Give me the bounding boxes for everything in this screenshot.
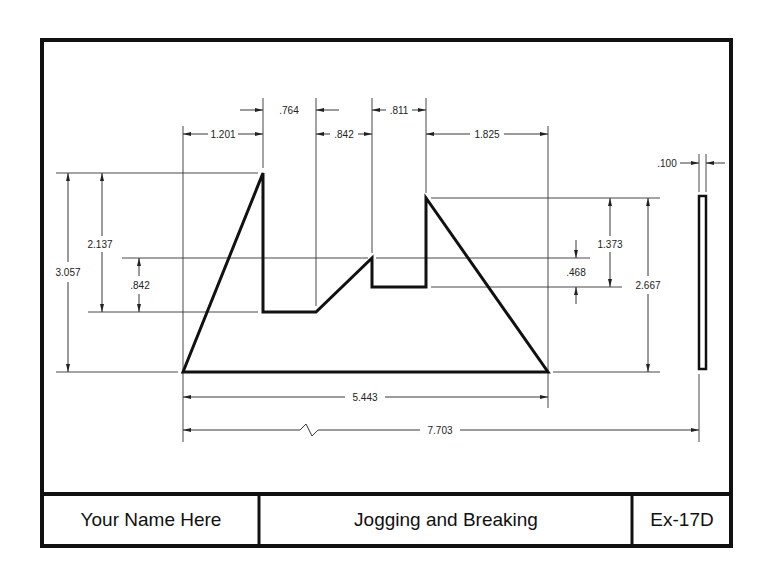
dim-1825: 1.825 bbox=[474, 129, 499, 140]
dim-842-h: .842 bbox=[334, 129, 354, 140]
dim-100: .100 bbox=[657, 158, 677, 169]
extension-lines bbox=[56, 98, 706, 442]
dim-3057: 3.057 bbox=[55, 267, 80, 278]
dim-468: .468 bbox=[566, 267, 586, 278]
title-block-title: Jogging and Breaking bbox=[261, 496, 631, 544]
dimension-lines bbox=[68, 110, 725, 436]
part-profile bbox=[183, 173, 548, 372]
dim-7703: 7.703 bbox=[427, 425, 452, 436]
dim-2667: 2.667 bbox=[635, 280, 660, 291]
dim-1201: 1.201 bbox=[210, 129, 235, 140]
drawing-border bbox=[42, 40, 731, 546]
title-block-name: Your Name Here bbox=[44, 496, 258, 544]
dim-811: .811 bbox=[390, 105, 409, 116]
part-side-view bbox=[699, 196, 706, 369]
technical-drawing: 1.201 .764 .842 .811 1.825 .100 5.443 7.… bbox=[0, 0, 766, 574]
dim-1373: 1.373 bbox=[597, 239, 622, 250]
dim-764: .764 bbox=[279, 105, 299, 116]
dim-5443: 5.443 bbox=[352, 392, 377, 403]
dim-842-v: .842 bbox=[130, 280, 150, 291]
dim-2137: 2.137 bbox=[87, 239, 112, 250]
title-block-exercise: Ex-17D bbox=[634, 496, 730, 544]
